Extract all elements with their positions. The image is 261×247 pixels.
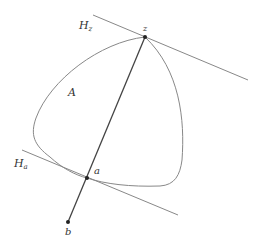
label-ha-main: H <box>14 157 24 170</box>
label-point-z: z <box>143 25 147 33</box>
point-b-dot <box>66 220 70 224</box>
hyperplane-z-line <box>93 15 248 80</box>
label-hz-main: H <box>79 19 89 32</box>
diagram-svg <box>0 0 261 247</box>
diagram-canvas: Hz z A Ha a b <box>0 0 261 247</box>
label-set-a: A <box>68 87 76 98</box>
point-z-dot <box>143 35 147 39</box>
label-hz-sub: z <box>89 25 93 33</box>
label-hz: Hz <box>79 20 92 33</box>
label-point-b: b <box>65 227 71 237</box>
point-a-dot <box>85 176 89 180</box>
label-point-a: a <box>94 166 100 176</box>
label-ha: Ha <box>14 158 28 171</box>
hyperplane-a-line <box>22 150 178 215</box>
label-ha-sub: a <box>24 163 28 171</box>
